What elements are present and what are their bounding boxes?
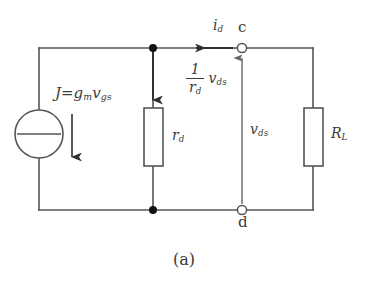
rl-resistor-body xyxy=(304,108,323,166)
vds-label: vds xyxy=(250,122,268,138)
junction-dot-top xyxy=(149,44,157,52)
fraction-numerator: 1 xyxy=(188,62,203,78)
terminal-c-label: c xyxy=(238,20,246,35)
dependent-current-source-symbol xyxy=(15,110,63,158)
source-gm-symbol: g xyxy=(74,84,84,102)
branch-current-label: 1 rd vds xyxy=(186,62,227,96)
fraction-denominator-symbol: r xyxy=(189,79,196,95)
source-vgs-symbol: v xyxy=(92,84,100,102)
vds-symbol: v xyxy=(250,121,258,137)
source-label: J=gmvgs xyxy=(55,86,112,102)
vds-subscript: ds xyxy=(258,128,268,138)
rd-resistor-body xyxy=(144,108,163,166)
rl-symbol: R xyxy=(331,125,342,141)
fraction-denominator-subscript: d xyxy=(196,86,202,96)
branch-current-factor: vds xyxy=(208,71,226,87)
rl-subscript: L xyxy=(342,132,348,142)
figure-caption: (a) xyxy=(0,252,368,268)
rd-symbol: r xyxy=(172,127,179,143)
branch-factor-subscript: ds xyxy=(216,77,226,87)
fraction-denominator: rd xyxy=(186,79,204,96)
id-subscript: d xyxy=(217,24,223,34)
rd-resistor-label: rd xyxy=(172,128,184,144)
source-vgs-subscript: gs xyxy=(101,91,112,102)
source-gm-subscript: m xyxy=(83,91,92,102)
terminal-c-marker xyxy=(237,43,246,52)
junction-dot-bottom xyxy=(149,206,157,214)
source-equals: = xyxy=(61,84,74,102)
circuit-figure: J=gmvgs rd 1 rd vds id c d vds RL (a) xyxy=(0,0,368,292)
circuit-schematic xyxy=(0,0,368,292)
rl-resistor-label: RL xyxy=(331,126,348,142)
rd-subscript: d xyxy=(179,134,185,144)
terminal-d-label: d xyxy=(238,215,248,230)
branch-current-fraction: 1 rd xyxy=(186,62,204,96)
drain-current-label: id xyxy=(213,18,223,34)
